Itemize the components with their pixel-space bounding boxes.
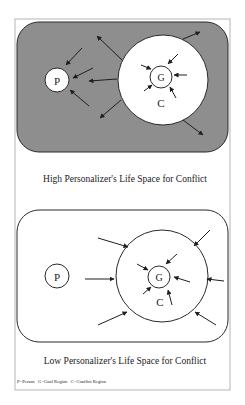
- conflict-label: C: [156, 296, 163, 308]
- low-panel-caption: Low Personalizer's Life Space for Confli…: [44, 356, 207, 366]
- legend: P=Person G=Goal Region C=Conflict Region: [17, 379, 107, 384]
- goal-label: G: [157, 72, 164, 83]
- goal-region: G: [150, 66, 172, 88]
- life-space-figure: P C G: [0, 0, 245, 405]
- high-panel-caption: High Personalizer's Life Space for Confl…: [43, 174, 207, 184]
- goal-region: G: [148, 266, 170, 288]
- person-node: P: [45, 68, 69, 92]
- person-label: P: [54, 75, 60, 87]
- diagram-canvas: P C G: [0, 0, 245, 405]
- goal-label: G: [155, 272, 162, 283]
- person-label: P: [54, 271, 60, 283]
- person-node: P: [45, 264, 69, 288]
- conflict-label: C: [157, 97, 164, 109]
